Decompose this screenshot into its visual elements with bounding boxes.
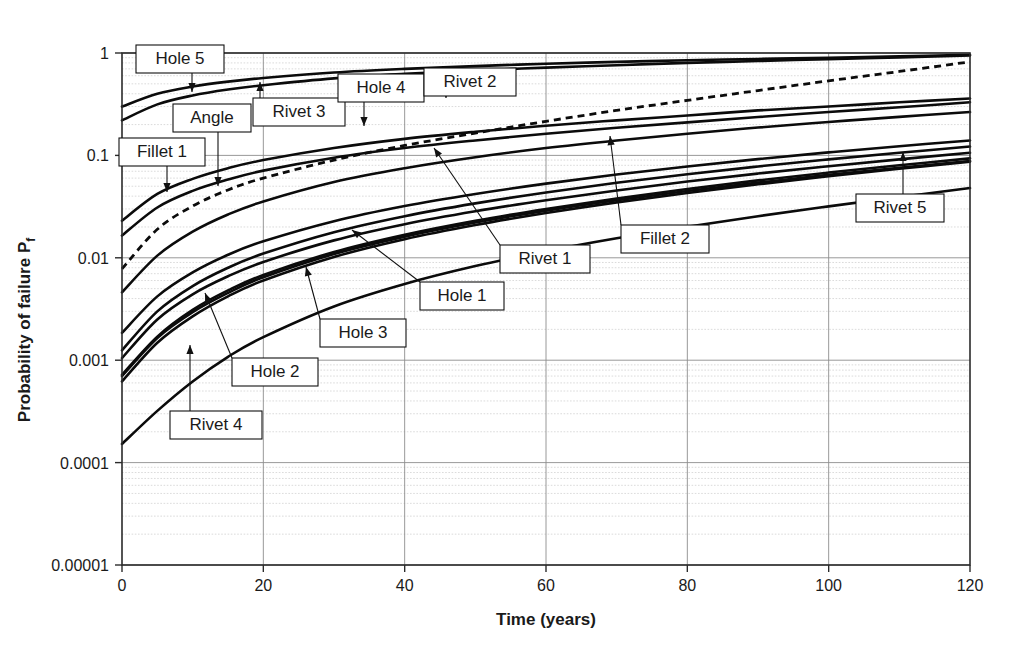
callout-label: Rivet 5 [874,198,927,217]
leader-arrowhead [434,148,442,158]
leader-line [610,136,621,225]
y-tick-label: 0.0001 [60,455,109,472]
x-tick-label: 40 [396,577,414,594]
y-axis-title: Probability of failure Pf [15,237,38,422]
callout-label: Rivet 1 [519,249,572,268]
callout-rivet-3: Rivet 3 [253,82,345,126]
leader-arrowhead [186,345,193,354]
callout-label: Rivet 3 [273,102,326,121]
callout-fillet-1: Fillet 1 [119,138,205,192]
x-tick-label: 80 [678,577,696,594]
callout-label: Fillet 1 [137,142,187,161]
svg-text:Time (years): Time (years) [496,610,596,629]
callout-label: Rivet 4 [190,415,243,434]
y-tick-label: 1 [100,45,109,62]
series-callout-labels: Hole 5AngleRivet 3Hole 4Rivet 2Fillet 1F… [119,45,944,439]
svg-text:Probability of failure Pf: Probability of failure Pf [15,237,38,422]
y-tick-label: 0.1 [87,147,109,164]
callout-label: Rivet 2 [444,72,497,91]
chart-figure: 10.10.010.0010.00010.00001 0204060801001… [0,0,1015,651]
callout-label: Hole 2 [250,362,299,381]
leader-arrowhead [305,267,312,277]
callout-hole-2: Hole 2 [205,293,318,386]
y-axis-tick-labels: 10.10.010.0010.00010.00001 [51,45,109,574]
callout-hole-3: Hole 3 [305,267,406,347]
y-tick-label: 0.00001 [51,557,109,574]
x-axis-title: Time (years) [496,610,596,629]
x-tick-label: 120 [957,577,984,594]
x-tick-label: 100 [815,577,842,594]
callout-rivet-2: Rivet 2 [424,68,516,98]
y-axis-title-subscript: f [24,237,38,242]
x-axis-tick-labels: 020406080100120 [118,577,984,594]
callout-label: Hole 5 [155,49,204,68]
callout-label: Fillet 2 [640,229,690,248]
callout-label: Angle [190,108,233,127]
callout-label: Hole 4 [356,78,405,97]
x-tick-label: 20 [254,577,272,594]
callout-label: Hole 1 [437,286,486,305]
callout-label: Hole 3 [338,323,387,342]
y-tick-label: 0.001 [69,352,109,369]
x-tick-label: 60 [537,577,555,594]
y-tick-label: 0.01 [78,250,109,267]
probability-of-failure-chart: 10.10.010.0010.00010.00001 0204060801001… [0,0,1015,651]
x-tick-label: 0 [118,577,127,594]
callout-hole-4: Hole 4 [338,74,424,126]
